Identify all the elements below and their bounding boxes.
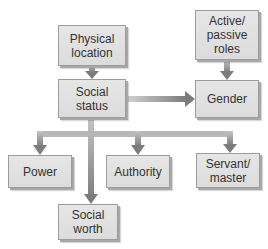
node-label: Physical location <box>61 32 123 60</box>
node-label: Social status <box>61 85 123 113</box>
node-label: Power <box>23 165 57 179</box>
node-label: Active/ passive roles <box>198 14 256 56</box>
node-authority: Authority <box>106 155 170 188</box>
node-active-passive-roles: Active/ passive roles <box>195 10 259 60</box>
node-label: Social worth <box>61 208 115 236</box>
node-servant-master: Servant/ master <box>196 153 260 188</box>
flow-diagram: Physical location Active/ passive roles … <box>0 0 268 249</box>
node-physical-location: Physical location <box>58 25 126 66</box>
node-label: Authority <box>114 165 161 179</box>
node-social-worth: Social worth <box>58 204 118 240</box>
node-gender: Gender <box>195 80 259 118</box>
arrow-roles-to-gender <box>220 60 234 80</box>
node-social-status: Social status <box>58 79 126 118</box>
node-label: Servant/ master <box>199 157 257 185</box>
node-label: Gender <box>207 92 247 106</box>
node-power: Power <box>8 155 72 188</box>
arrow-status-to-social-worth <box>84 118 98 204</box>
arrow-status-to-gender <box>128 91 195 107</box>
arrow-physical-to-status <box>85 66 99 79</box>
